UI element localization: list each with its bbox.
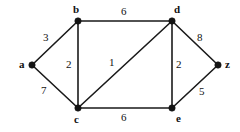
graph-edge-c-d: [78, 21, 172, 108]
node-label-z: z: [225, 59, 230, 70]
graph-node-z: [215, 62, 221, 68]
graph-node-b: [75, 18, 81, 24]
edge-weight-b-d: 6: [121, 6, 127, 17]
edge-weight-d-e: 2: [176, 59, 182, 70]
edges-group: [32, 21, 218, 108]
graph-edge-e-z: [172, 65, 218, 108]
graph-node-e: [169, 105, 175, 111]
node-label-d: d: [174, 4, 180, 15]
graph-node-a: [29, 62, 35, 68]
node-label-c: c: [74, 114, 79, 125]
edge-weight-a-b: 3: [43, 32, 49, 43]
graph-node-d: [169, 18, 175, 24]
edge-weight-e-z: 5: [199, 86, 205, 97]
graph-canvas: [0, 0, 240, 132]
graph-node-c: [75, 105, 81, 111]
node-label-e: e: [176, 113, 181, 124]
edge-weight-c-e: 6: [121, 112, 127, 123]
graph-edge-a-c: [32, 65, 78, 108]
node-label-b: b: [73, 4, 79, 15]
edge-weight-d-z: 8: [197, 32, 203, 43]
weighted-graph-figure: 376216285abcdez: [0, 0, 240, 132]
node-label-a: a: [19, 59, 25, 70]
edge-weight-b-c: 2: [66, 59, 72, 70]
edge-weight-c-d: 1: [109, 57, 115, 68]
edge-weight-a-c: 7: [41, 85, 47, 96]
